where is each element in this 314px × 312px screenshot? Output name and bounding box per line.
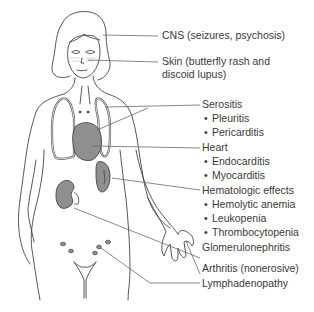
hair-outline: [52, 12, 110, 81]
label-skin-line1: Skin (butterfly rash and: [162, 55, 270, 68]
left-eye: [72, 51, 80, 54]
label-skin-line2: discoid lupus): [162, 68, 226, 81]
leader-serositis: [106, 105, 200, 107]
label-heart: Heart: [202, 141, 228, 154]
label-lymphadenopathy: Lymphadenopathy: [202, 277, 288, 290]
left-arm: [19, 160, 37, 264]
nose: [81, 58, 84, 63]
heart: [73, 123, 102, 161]
leader-lymphadenopathy: [101, 248, 200, 283]
label-serositis: Serositis: [202, 98, 242, 111]
label-hemolytic-anemia: Hemolytic anemia: [204, 198, 295, 211]
label-endocarditis: Endocarditis: [204, 155, 270, 168]
leader-cns: [103, 35, 158, 36]
spleen: [96, 162, 110, 192]
lymph-node: [97, 245, 102, 249]
label-cns: CNS (seizures, psychosis): [162, 29, 285, 42]
lymph-node: [60, 242, 65, 246]
mouth: [77, 70, 87, 71]
lymph-node: [93, 251, 98, 255]
leader-glomerulonephritis: [74, 208, 200, 258]
leader-hematologic: [112, 178, 200, 190]
torso-right: [120, 150, 130, 300]
label-leukopenia: Leukopenia: [204, 212, 266, 225]
label-pericarditis: Pericarditis: [204, 126, 264, 139]
label-myocarditis: Myocarditis: [204, 169, 265, 182]
label-glomerulonephritis: Glomerulonephritis: [202, 241, 290, 254]
torso-left: [31, 150, 44, 300]
leader-pericarditis: [97, 108, 148, 130]
kidney: [56, 180, 74, 208]
lymph-node: [69, 249, 74, 253]
face-outline: [68, 35, 100, 78]
label-hematologic: Hematologic effects: [202, 184, 294, 197]
lymph-node: [105, 240, 110, 244]
neck-right: [93, 76, 170, 228]
label-pleuritis: Pleuritis: [204, 112, 249, 125]
trachea: [80, 86, 90, 104]
right-eye: [86, 51, 95, 54]
label-arthritis: Arthritis (nonerosive): [202, 262, 299, 275]
label-thrombocytopenia: Thrombocytopenia: [204, 226, 299, 239]
